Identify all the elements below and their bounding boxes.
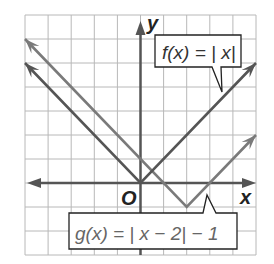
f-label: f(x) = | x| bbox=[162, 42, 236, 63]
y-axis-arrow-up-icon bbox=[136, 21, 146, 35]
y-axis-label: y bbox=[146, 12, 159, 34]
origin-label: O bbox=[121, 187, 137, 209]
x-axis-label: x bbox=[239, 186, 252, 208]
f-callout: f(x) = | x| bbox=[155, 35, 241, 92]
x-axis-arrow-left-icon bbox=[27, 178, 41, 188]
g-label: g(x) = | x − 2| − 1 bbox=[75, 223, 218, 244]
coordinate-graph: y x O f(x) = | x| g(x) = | x − 2| − 1 bbox=[0, 0, 274, 264]
